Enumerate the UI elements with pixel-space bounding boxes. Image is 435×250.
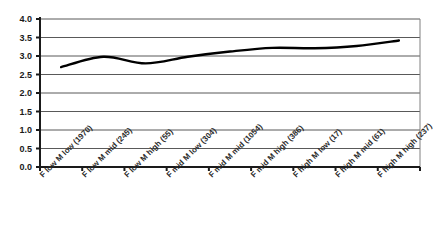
y-tick-label: 0.5 xyxy=(19,144,32,154)
y-tick-label: 2.5 xyxy=(19,70,32,80)
y-axis-ticks: 0.00.51.01.52.02.53.03.54.0 xyxy=(19,14,40,172)
line-chart: 0.00.51.01.52.02.53.03.54.0F low M low (… xyxy=(0,0,435,250)
y-tick-label: 3.5 xyxy=(19,33,32,43)
y-tick-label: 3.0 xyxy=(19,51,32,61)
y-tick-label: 4.0 xyxy=(19,14,32,24)
y-tick-label: 1.5 xyxy=(19,107,32,117)
y-tick-label: 1.0 xyxy=(19,125,32,135)
chart-canvas: 0.00.51.01.52.02.53.03.54.0F low M low (… xyxy=(0,0,435,250)
y-tick-label: 0.0 xyxy=(19,162,32,172)
y-tick-label: 2.0 xyxy=(19,88,32,98)
